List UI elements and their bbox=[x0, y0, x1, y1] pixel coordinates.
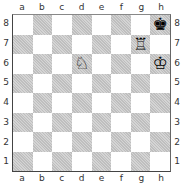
square-d7[interactable] bbox=[72, 35, 92, 55]
square-h2[interactable] bbox=[150, 132, 170, 152]
file-label: a bbox=[12, 173, 32, 183]
square-c1[interactable] bbox=[52, 152, 72, 172]
rank-label: 2 bbox=[172, 137, 182, 147]
black-king-icon[interactable]: ♚ bbox=[153, 16, 168, 33]
square-b3[interactable] bbox=[33, 113, 53, 133]
rank-label: 4 bbox=[1, 97, 11, 107]
square-h5[interactable] bbox=[150, 74, 170, 94]
square-a3[interactable] bbox=[13, 113, 33, 133]
file-label: f bbox=[111, 2, 131, 12]
square-f4[interactable] bbox=[111, 93, 131, 113]
square-c6[interactable] bbox=[52, 54, 72, 74]
square-h4[interactable] bbox=[150, 93, 170, 113]
square-e2[interactable] bbox=[92, 132, 112, 152]
square-e7[interactable] bbox=[92, 35, 112, 55]
square-c8[interactable] bbox=[52, 15, 72, 35]
rank-label: 3 bbox=[1, 117, 11, 127]
square-g5[interactable] bbox=[131, 74, 151, 94]
square-h8[interactable]: ♚ bbox=[150, 15, 170, 35]
square-e8[interactable] bbox=[92, 15, 112, 35]
square-b1[interactable] bbox=[33, 152, 53, 172]
square-c2[interactable] bbox=[52, 132, 72, 152]
square-c7[interactable] bbox=[52, 35, 72, 55]
square-e4[interactable] bbox=[92, 93, 112, 113]
rank-label: 1 bbox=[172, 156, 182, 166]
rank-label: 8 bbox=[172, 18, 182, 28]
square-d1[interactable] bbox=[72, 152, 92, 172]
rank-label: 3 bbox=[172, 117, 182, 127]
square-b6[interactable] bbox=[33, 54, 53, 74]
square-a2[interactable] bbox=[13, 132, 33, 152]
square-f2[interactable] bbox=[111, 132, 131, 152]
square-a5[interactable] bbox=[13, 74, 33, 94]
square-f3[interactable] bbox=[111, 113, 131, 133]
square-f1[interactable] bbox=[111, 152, 131, 172]
rank-label: 4 bbox=[172, 97, 182, 107]
square-d4[interactable] bbox=[72, 93, 92, 113]
square-h3[interactable] bbox=[150, 113, 170, 133]
chess-board: ♚♖♘♔ bbox=[12, 14, 171, 172]
rank-label: 5 bbox=[172, 77, 182, 87]
square-g1[interactable] bbox=[131, 152, 151, 172]
file-label: a bbox=[12, 2, 32, 12]
file-label: e bbox=[92, 173, 112, 183]
square-d2[interactable] bbox=[72, 132, 92, 152]
file-label: c bbox=[52, 173, 72, 183]
square-b5[interactable] bbox=[33, 74, 53, 94]
rank-label: 1 bbox=[1, 156, 11, 166]
square-a1[interactable] bbox=[13, 152, 33, 172]
white-rook-icon[interactable]: ♖ bbox=[133, 36, 148, 53]
file-label: f bbox=[111, 173, 131, 183]
square-a6[interactable] bbox=[13, 54, 33, 74]
square-d8[interactable] bbox=[72, 15, 92, 35]
square-e3[interactable] bbox=[92, 113, 112, 133]
square-a4[interactable] bbox=[13, 93, 33, 113]
square-b2[interactable] bbox=[33, 132, 53, 152]
file-label: b bbox=[32, 173, 52, 183]
square-b8[interactable] bbox=[33, 15, 53, 35]
rank-label: 6 bbox=[172, 58, 182, 68]
rank-label: 5 bbox=[1, 77, 11, 87]
square-e5[interactable] bbox=[92, 74, 112, 94]
square-g6[interactable] bbox=[131, 54, 151, 74]
square-f8[interactable] bbox=[111, 15, 131, 35]
square-c5[interactable] bbox=[52, 74, 72, 94]
square-f5[interactable] bbox=[111, 74, 131, 94]
rank-label: 7 bbox=[172, 38, 182, 48]
file-label: h bbox=[151, 2, 171, 12]
square-d3[interactable] bbox=[72, 113, 92, 133]
square-g2[interactable] bbox=[131, 132, 151, 152]
square-c4[interactable] bbox=[52, 93, 72, 113]
square-g7[interactable]: ♖ bbox=[131, 35, 151, 55]
file-label: d bbox=[72, 2, 92, 12]
square-b7[interactable] bbox=[33, 35, 53, 55]
square-a8[interactable] bbox=[13, 15, 33, 35]
square-f6[interactable] bbox=[111, 54, 131, 74]
square-f7[interactable] bbox=[111, 35, 131, 55]
file-label: e bbox=[92, 2, 112, 12]
file-label: g bbox=[131, 173, 151, 183]
square-g4[interactable] bbox=[131, 93, 151, 113]
square-h6[interactable]: ♔ bbox=[150, 54, 170, 74]
square-d5[interactable] bbox=[72, 74, 92, 94]
square-e1[interactable] bbox=[92, 152, 112, 172]
square-c3[interactable] bbox=[52, 113, 72, 133]
rank-label: 2 bbox=[1, 137, 11, 147]
rank-label: 7 bbox=[1, 38, 11, 48]
square-g8[interactable] bbox=[131, 15, 151, 35]
file-label: c bbox=[52, 2, 72, 12]
white-knight-icon[interactable]: ♘ bbox=[74, 55, 89, 72]
square-h1[interactable] bbox=[150, 152, 170, 172]
square-h7[interactable] bbox=[150, 35, 170, 55]
file-label: b bbox=[32, 2, 52, 12]
rank-label: 8 bbox=[1, 18, 11, 28]
square-a7[interactable] bbox=[13, 35, 33, 55]
square-g3[interactable] bbox=[131, 113, 151, 133]
white-king-icon[interactable]: ♔ bbox=[153, 55, 168, 72]
file-label: g bbox=[131, 2, 151, 12]
square-d6[interactable]: ♘ bbox=[72, 54, 92, 74]
rank-label: 6 bbox=[1, 58, 11, 68]
square-b4[interactable] bbox=[33, 93, 53, 113]
file-label: h bbox=[151, 173, 171, 183]
square-e6[interactable] bbox=[92, 54, 112, 74]
